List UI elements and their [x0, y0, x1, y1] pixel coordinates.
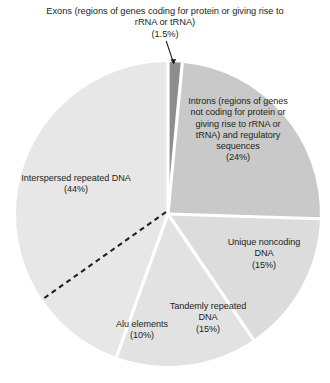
- label-interspersed-line2: repeated DNA: [74, 173, 131, 183]
- label-interspersed-line1: Interspersed: [21, 173, 71, 183]
- label-introns-line6: sequences: [216, 141, 260, 151]
- exons-leader-line: [166, 41, 176, 65]
- label-interspersed-repeated-dna: Interspersed repeated DNA (44%): [20, 173, 132, 196]
- label-unique-line3: DNA: [254, 248, 273, 258]
- label-tandem-line1: Tandemly: [170, 301, 209, 311]
- label-introns-line5: and regulatory: [223, 130, 280, 140]
- label-introns-pct: (24%): [186, 152, 290, 163]
- label-exons-pct: (1.5%): [46, 29, 284, 40]
- label-exons-line1: Exons (regions of genes coding for: [46, 6, 188, 16]
- pie-chart-figure: Exons (regions of genes coding for prote…: [0, 0, 330, 383]
- label-alu-line1: Alu elements: [116, 319, 168, 329]
- label-alu-pct: (10%): [104, 330, 180, 341]
- label-unique-noncoding-dna: Unique noncoding DNA (15%): [222, 237, 306, 271]
- label-alu-elements: Alu elements (10%): [104, 319, 180, 342]
- label-interspersed-pct: (44%): [20, 184, 132, 195]
- label-introns: Introns (regions of genes not coding for…: [186, 96, 290, 164]
- label-unique-line1: Unique: [228, 237, 257, 247]
- label-unique-pct: (15%): [222, 260, 306, 271]
- label-unique-line2: noncoding: [259, 237, 301, 247]
- label-exons: Exons (regions of genes coding for prote…: [46, 6, 284, 40]
- label-introns-line1: Introns (regions: [188, 96, 250, 106]
